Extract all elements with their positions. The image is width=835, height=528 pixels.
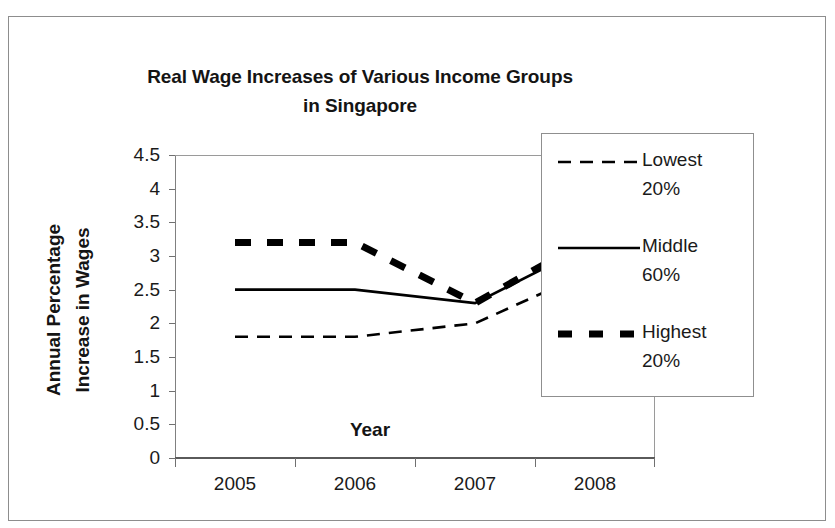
- y-tick-label-0.5: 0.5: [134, 413, 160, 434]
- legend-label-middle-60: Middle 60%: [642, 231, 754, 289]
- legend-label-middle-60-line-2: 60%: [642, 260, 754, 289]
- legend-swatch-dashed-icon: [558, 156, 640, 168]
- legend-swatch-solid-icon: [558, 242, 640, 254]
- y-tick-label-1.5: 1.5: [134, 346, 160, 367]
- x-tick-label-2006: 2006: [295, 473, 415, 495]
- y-axis-title-line-2: Increase in Wages: [68, 224, 97, 396]
- x-tick-4: [654, 458, 655, 467]
- x-tick-2: [415, 458, 416, 467]
- legend-item-lowest-20: Lowest 20%: [542, 148, 755, 210]
- legend-item-highest-20: Highest 20%: [542, 320, 755, 382]
- y-tick-label-2.5: 2.5: [134, 279, 160, 300]
- legend-label-lowest-20-line-1: Lowest: [642, 149, 702, 170]
- x-tick-label-2008: 2008: [535, 473, 655, 495]
- x-tick-1: [295, 458, 296, 467]
- legend-swatch-thick-dashed-icon: [558, 328, 640, 340]
- y-tick-label-3: 3: [149, 245, 160, 266]
- legend-label-highest-20-line-1: Highest: [642, 321, 706, 342]
- y-tick-label-3.5: 3.5: [134, 211, 160, 232]
- x-tick-label-2005: 2005: [175, 473, 295, 495]
- y-tick-label-1: 1: [149, 380, 160, 401]
- chart-page: Real Wage Increases of Various Income Gr…: [0, 0, 835, 528]
- x-tick-0: [175, 458, 176, 467]
- y-axis-title-line-1: Annual Percentage: [43, 224, 64, 396]
- y-tick-label-4.5: 4.5: [134, 144, 160, 165]
- legend-label-lowest-20: Lowest 20%: [642, 145, 754, 203]
- chart-legend: Lowest 20% Middle 60% Highest 20%: [541, 133, 754, 397]
- y-tick-label-0: 0: [149, 447, 160, 468]
- y-axis-title: Annual Percentage Increase in Wages: [36, 150, 100, 470]
- legend-label-highest-20-line-2: 20%: [642, 346, 754, 375]
- legend-label-highest-20: Highest 20%: [642, 317, 754, 375]
- legend-label-lowest-20-line-2: 20%: [642, 174, 754, 203]
- y-tick-label-4: 4: [149, 178, 160, 199]
- chart-title-line-1: Real Wage Increases of Various Income Gr…: [147, 66, 573, 87]
- y-tick-label-2: 2: [149, 312, 160, 333]
- x-tick-3: [535, 458, 536, 467]
- chart-title-line-2: in Singapore: [60, 91, 660, 120]
- x-tick-label-2007: 2007: [415, 473, 535, 495]
- legend-label-middle-60-line-1: Middle: [642, 235, 698, 256]
- legend-item-middle-60: Middle 60%: [542, 234, 755, 296]
- chart-title: Real Wage Increases of Various Income Gr…: [60, 62, 660, 120]
